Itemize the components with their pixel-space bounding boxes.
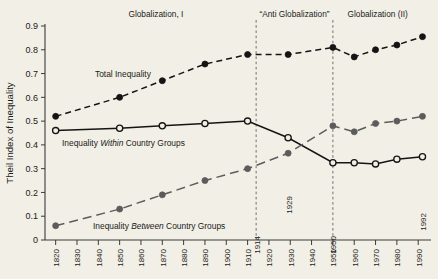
annotation-1929: 1929 [285,195,294,213]
data-point [245,52,251,58]
x-tick-label: 1970 [372,248,381,266]
y-axis-title: Theil Index of Inequality [4,82,15,184]
data-point [53,223,59,229]
data-point [372,161,378,167]
data-point [285,135,291,141]
y-tick-label: 0.3 [25,164,38,174]
data-point [159,192,165,198]
x-tick-label: 1890 [201,248,210,266]
data-point [159,123,165,129]
data-point [351,160,357,166]
x-tick-label: 1880 [180,248,189,266]
x-tick-label: 1840 [95,248,104,266]
data-point [245,166,251,172]
annotation-1914: 1914 [253,235,262,253]
annotation-1950: 1950 [329,235,338,253]
y-tick-label: 0.2 [25,188,38,198]
x-tick-label: 1900 [223,248,232,266]
data-point [117,125,123,131]
y-tick-label: 0.8 [25,45,38,55]
data-point [117,94,123,100]
x-tick-label: 1980 [393,248,402,266]
x-tick-label: 1820 [52,248,61,266]
inline-series-label-1: Inequality Within Country Groups [62,138,185,148]
data-point [53,128,59,134]
data-point [202,61,208,67]
data-point [330,123,336,129]
data-point [373,120,379,126]
data-point [394,42,400,48]
data-point [53,113,59,119]
inequality-line-chart: Globalization, I“Anti Globalization”Glob… [0,0,438,279]
era-label-2: Globalization (II) [347,9,408,19]
x-tick-label: 1850 [116,248,125,266]
x-tick-label: 1860 [137,248,146,266]
x-tick-label: 1870 [159,248,168,266]
y-tick-label: 0.5 [25,116,38,126]
era-label-1: “Anti Globalization” [259,9,329,19]
annotation-1992: 1992 [419,212,428,230]
x-tick-label: 1920 [265,248,274,266]
y-tick-label: 0.1 [25,211,38,221]
data-point [202,120,208,126]
inline-series-label-2: Inequality Between Country Groups [93,221,225,231]
x-tick-label: 1830 [73,248,82,266]
chart-container: Globalization, I“Anti Globalization”Glob… [0,0,438,279]
y-tick-label: 0 [33,235,38,245]
inline-series-label-0: Total Inequality [95,69,152,79]
era-band-labels: Globalization, I“Anti Globalization”Glob… [128,9,408,19]
data-point [419,154,425,160]
data-point [117,206,123,212]
data-point [244,118,250,124]
data-point [285,150,291,156]
data-point [394,156,400,162]
data-point [330,160,336,166]
data-point [419,34,425,40]
data-point [351,54,357,60]
x-tick-label: 1940 [308,248,317,266]
data-point [351,129,357,135]
x-tick-label: 1930 [287,248,296,266]
data-point [419,113,425,119]
y-tick-label: 0.9 [25,21,38,31]
y-tick-label: 0.4 [25,140,38,150]
data-point [202,178,208,184]
y-tick-label: 0.7 [25,69,38,79]
x-tick-label: 1990 [415,248,424,266]
data-point [285,52,291,58]
x-tick-label: 1960 [351,248,360,266]
era-label-0: Globalization, I [128,9,183,19]
data-point [159,78,165,84]
data-point [373,47,379,53]
data-point [330,44,336,50]
y-tick-label: 0.6 [25,93,38,103]
data-point [394,118,400,124]
